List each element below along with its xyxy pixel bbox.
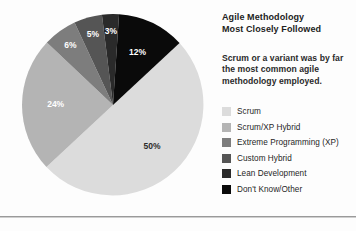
legend-item-label: Extreme Programming (XP) — [237, 138, 339, 147]
legend-color-swatch — [222, 169, 231, 178]
bottom-divider-shadow — [0, 217, 356, 218]
legend-item-label: Scrum/XP Hybrid — [237, 123, 300, 132]
legend-item[interactable]: Lean Development — [222, 166, 356, 182]
legend-item-label: Scrum — [237, 107, 261, 116]
legend-color-swatch — [222, 185, 231, 194]
pie-slice-label: 3% — [105, 26, 118, 36]
legend-item[interactable]: Extreme Programming (XP) — [222, 135, 356, 151]
legend-color-swatch — [222, 138, 231, 147]
pie-slice-label: 6% — [64, 40, 77, 50]
legend-item[interactable]: Scrum/XP Hybrid — [222, 120, 356, 136]
pie-slice-label: 12% — [129, 47, 146, 57]
legend-color-swatch — [222, 107, 231, 116]
chart-legend: ScrumScrum/XP HybridExtreme Programming … — [222, 104, 356, 197]
legend-color-swatch — [222, 154, 231, 163]
legend-color-swatch — [222, 123, 231, 132]
chart-side-panel: Agile Methodology Most Closely Followed … — [222, 12, 356, 197]
legend-item-label: Don't Know/Other — [237, 185, 302, 194]
pie-chart: 50%24%6%5%3%12% — [22, 14, 204, 196]
chart-caption: Scrum or a variant was by far the most c… — [222, 53, 356, 87]
pie-chart-svg: 50%24%6%5%3%12% — [22, 14, 204, 196]
pie-slice-label: 50% — [144, 141, 161, 151]
pie-slice-label: 24% — [47, 99, 64, 109]
legend-item-label: Custom Hybrid — [237, 154, 292, 163]
legend-item[interactable]: Don't Know/Other — [222, 182, 356, 198]
legend-item-label: Lean Development — [237, 169, 307, 178]
chart-figure: 50%24%6%5%3%12% Agile Methodology Most C… — [0, 0, 356, 231]
legend-item[interactable]: Custom Hybrid — [222, 151, 356, 167]
pie-slice-label: 5% — [87, 29, 100, 39]
legend-item[interactable]: Scrum — [222, 104, 356, 120]
chart-title: Agile Methodology Most Closely Followed — [222, 12, 356, 35]
